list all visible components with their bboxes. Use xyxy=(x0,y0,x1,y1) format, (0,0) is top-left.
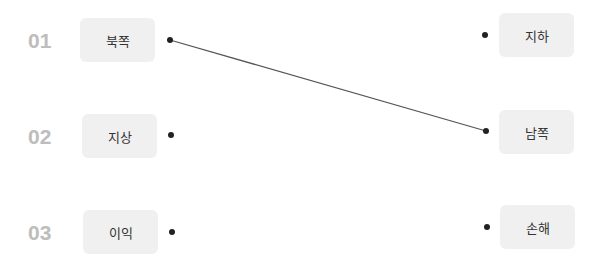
right-connector-dot-2[interactable] xyxy=(483,128,489,134)
row-number-3: 03 xyxy=(28,221,68,245)
row-number-1: 01 xyxy=(28,29,68,53)
right-connector-dot-1[interactable] xyxy=(482,32,488,38)
left-card-1[interactable]: 북쪽 xyxy=(80,18,155,62)
left-card-3[interactable]: 이익 xyxy=(83,210,158,254)
connection-line-north-south xyxy=(170,40,486,131)
left-card-label: 북쪽 xyxy=(106,31,130,50)
left-connector-dot-3[interactable] xyxy=(169,229,175,235)
right-card-label: 손해 xyxy=(526,218,550,237)
right-card-label: 남쪽 xyxy=(525,123,549,142)
right-card-label: 지하 xyxy=(525,26,549,45)
row-number-2: 02 xyxy=(28,125,68,149)
right-connector-dot-3[interactable] xyxy=(484,224,490,230)
left-connector-dot-2[interactable] xyxy=(168,132,174,138)
left-connector-dot-1[interactable] xyxy=(167,37,173,43)
right-card-2[interactable]: 남쪽 xyxy=(499,110,574,154)
right-card-3[interactable]: 손해 xyxy=(500,205,575,249)
left-card-label: 지상 xyxy=(108,127,132,146)
left-card-label: 이익 xyxy=(109,223,133,242)
left-card-2[interactable]: 지상 xyxy=(82,114,157,158)
right-card-1[interactable]: 지하 xyxy=(499,13,574,57)
